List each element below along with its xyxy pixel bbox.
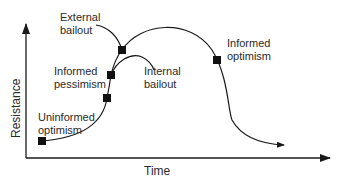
label-informed-pessimism: Informed pessimism (54, 65, 106, 91)
marker-external-bailout (118, 46, 126, 54)
marker-transition (103, 94, 111, 102)
x-axis-label: Time (144, 164, 170, 178)
label-uninformed-optimism: Uninformed optimism (38, 111, 95, 137)
marker-uninformed-optimism (38, 137, 46, 145)
marker-informed-pessimism (107, 71, 115, 79)
label-informed-optimism: Informed optimism (227, 37, 271, 63)
marker-informed-optimism (213, 56, 221, 64)
label-external-bailout: External bailout (60, 11, 100, 37)
diagram-canvas (0, 0, 339, 182)
label-internal-bailout: Internal bailout (144, 65, 181, 91)
y-axis-label: Resistance (9, 79, 23, 138)
